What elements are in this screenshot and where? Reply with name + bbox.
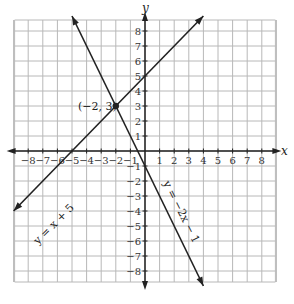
y-tick-label: −2 bbox=[126, 176, 141, 187]
y-tick-label: −6 bbox=[126, 236, 141, 247]
coordinate-plane: −8−7−6−5−4−3−2−11234567887654321−1−2−3−4… bbox=[0, 0, 294, 304]
x-tick-label: 4 bbox=[200, 155, 206, 166]
axes bbox=[7, 12, 282, 290]
line-series-1 bbox=[14, 16, 204, 211]
x-tick-label: −3 bbox=[94, 155, 109, 166]
y-tick-label: 3 bbox=[135, 101, 141, 112]
x-tick-label: 1 bbox=[156, 155, 162, 166]
x-axis-label: x bbox=[281, 144, 288, 158]
y-tick-label: −5 bbox=[126, 221, 141, 232]
intersection-point bbox=[113, 103, 119, 109]
x-tick-label: 6 bbox=[229, 155, 235, 166]
x-tick-label: −7 bbox=[35, 155, 50, 166]
x-tick-label: 7 bbox=[244, 155, 250, 166]
y-tick-label: −4 bbox=[126, 206, 141, 217]
y-tick-label: −8 bbox=[126, 266, 141, 277]
y-tick-label: −1 bbox=[126, 161, 141, 172]
y-tick-label: 6 bbox=[135, 56, 141, 67]
y-tick-label: 8 bbox=[135, 26, 141, 37]
x-tick-label: −2 bbox=[108, 155, 123, 166]
x-tick-label: −4 bbox=[79, 155, 94, 166]
x-tick-label: 5 bbox=[215, 155, 221, 166]
y-axis-label: y bbox=[141, 1, 149, 15]
x-tick-label: 2 bbox=[171, 155, 177, 166]
x-tick-label: −8 bbox=[21, 155, 36, 166]
y-tick-label: 2 bbox=[135, 116, 141, 127]
y-tick-label: −7 bbox=[126, 251, 141, 262]
y-tick-label: 5 bbox=[135, 71, 141, 82]
x-tick-label: 3 bbox=[186, 155, 192, 166]
y-tick-label: −3 bbox=[126, 191, 141, 202]
y-tick-label: 1 bbox=[135, 131, 141, 142]
intersection-point-label: (−2, 3) bbox=[78, 100, 117, 113]
x-tick-label: 8 bbox=[259, 155, 265, 166]
y-tick-label: 4 bbox=[135, 86, 141, 97]
y-tick-label: 7 bbox=[135, 41, 141, 52]
